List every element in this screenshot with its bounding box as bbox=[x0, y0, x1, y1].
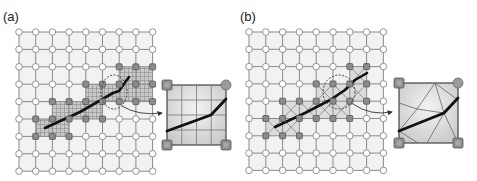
grid-node bbox=[380, 115, 387, 122]
grid-node bbox=[246, 133, 253, 140]
grid-node bbox=[279, 167, 286, 174]
grid-node bbox=[363, 167, 370, 174]
active-node-marker bbox=[347, 98, 353, 104]
grid-node bbox=[246, 98, 253, 105]
grid-node bbox=[149, 29, 156, 36]
grid-node bbox=[363, 115, 370, 122]
grid-node bbox=[83, 46, 90, 53]
grid-node bbox=[263, 167, 270, 174]
active-node-marker bbox=[66, 99, 72, 105]
grid-node bbox=[16, 133, 23, 140]
active-node-marker bbox=[133, 64, 139, 70]
active-node-marker bbox=[66, 133, 72, 139]
grid-node bbox=[49, 29, 56, 36]
grid-node bbox=[99, 46, 106, 53]
grid-node bbox=[279, 29, 286, 36]
active-node-marker bbox=[364, 64, 370, 70]
grid-node bbox=[380, 167, 387, 174]
grid-node bbox=[347, 167, 354, 174]
grid-node bbox=[49, 151, 56, 158]
grid-node bbox=[99, 168, 106, 175]
grid-node bbox=[279, 150, 286, 157]
active-node-marker bbox=[100, 81, 106, 87]
grid-node bbox=[296, 81, 303, 88]
mesh-refinement-figure bbox=[0, 0, 477, 181]
grid-node bbox=[16, 29, 23, 36]
grid-node bbox=[246, 115, 253, 122]
grid-node bbox=[32, 168, 39, 175]
grid-node bbox=[32, 64, 39, 71]
grid-node bbox=[99, 133, 106, 140]
grid-node bbox=[246, 150, 253, 157]
grid-node bbox=[363, 133, 370, 140]
grid-node bbox=[116, 151, 123, 158]
grid-node bbox=[83, 151, 90, 158]
active-node-marker bbox=[33, 116, 39, 122]
grid-node bbox=[49, 64, 56, 71]
grid-node bbox=[263, 150, 270, 157]
grid-node bbox=[66, 46, 73, 53]
active-node-marker bbox=[364, 81, 370, 87]
active-node-marker bbox=[330, 98, 336, 104]
grid-node bbox=[66, 64, 73, 71]
grid-node bbox=[133, 116, 140, 123]
grid-node bbox=[16, 81, 23, 88]
inset-corner-circle bbox=[221, 80, 231, 90]
grid-node bbox=[246, 29, 253, 36]
inset-corner-square-inner bbox=[456, 141, 461, 146]
grid-node bbox=[16, 151, 23, 158]
grid-node bbox=[330, 29, 337, 36]
grid-node bbox=[330, 167, 337, 174]
grid-node bbox=[32, 151, 39, 158]
grid-node bbox=[32, 29, 39, 36]
active-node-marker bbox=[150, 64, 156, 70]
grid-node bbox=[347, 29, 354, 36]
grid-node bbox=[279, 46, 286, 53]
grid-node bbox=[347, 46, 354, 53]
active-node-marker bbox=[83, 116, 89, 122]
grid-node bbox=[133, 133, 140, 140]
grid-node bbox=[263, 98, 270, 105]
grid-node bbox=[16, 168, 23, 175]
grid-node bbox=[296, 46, 303, 53]
grid-node bbox=[133, 29, 140, 36]
active-node-marker bbox=[133, 99, 139, 105]
grid-node bbox=[313, 46, 320, 53]
active-node-marker bbox=[49, 99, 55, 105]
grid-node bbox=[66, 29, 73, 36]
panel-a bbox=[16, 29, 231, 175]
grid-node bbox=[49, 81, 56, 88]
active-node-marker bbox=[33, 133, 39, 139]
grid-node bbox=[363, 46, 370, 53]
active-node-marker bbox=[296, 116, 302, 122]
grid-node bbox=[313, 63, 320, 70]
grid-node bbox=[16, 98, 23, 105]
grid-node bbox=[296, 29, 303, 36]
grid-node bbox=[279, 81, 286, 88]
grid-node bbox=[83, 29, 90, 36]
grid-node bbox=[99, 151, 106, 158]
grid-node bbox=[32, 46, 39, 53]
grid-node bbox=[49, 168, 56, 175]
inset-corner-square-inner bbox=[224, 143, 229, 148]
inset-corner-circle bbox=[453, 78, 463, 88]
active-node-marker bbox=[263, 133, 269, 139]
grid-node bbox=[330, 46, 337, 53]
grid-node bbox=[99, 64, 106, 71]
grid-node bbox=[363, 29, 370, 36]
grid-node bbox=[246, 46, 253, 53]
inset-corner-square-inner bbox=[397, 81, 402, 86]
active-node-marker bbox=[100, 116, 106, 122]
active-node-marker bbox=[347, 64, 353, 70]
inset-corner-square-inner bbox=[165, 83, 170, 88]
active-node-marker bbox=[263, 116, 269, 122]
active-node-marker bbox=[280, 116, 286, 122]
active-node-marker bbox=[330, 116, 336, 122]
grid-node bbox=[380, 29, 387, 36]
active-node-marker bbox=[133, 81, 139, 87]
panel-b-label: (b) bbox=[240, 9, 256, 24]
grid-node bbox=[49, 46, 56, 53]
grid-node bbox=[263, 46, 270, 53]
grid-node bbox=[116, 46, 123, 53]
grid-node bbox=[149, 133, 156, 140]
